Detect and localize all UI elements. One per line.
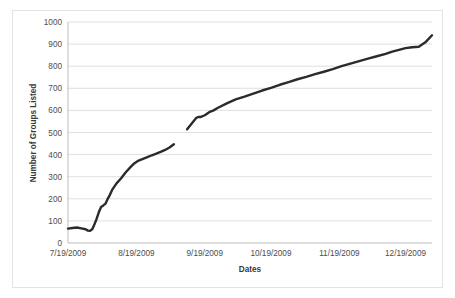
y-tick-label: 500 [48,129,62,138]
y-axis-tick-labels: 10009008007006005004003002001000 [44,18,63,248]
y-tick-label: 700 [48,84,62,93]
x-tick-label: 11/19/2009 [319,249,360,258]
y-tick-label: 0 [57,239,62,248]
x-tick-label: 9/19/2009 [187,249,224,258]
line-chart: 10009008007006005004003002001000 7/19/20… [0,0,455,298]
x-tick-label: 7/19/2009 [50,249,87,258]
x-tick-label: 10/19/2009 [250,249,291,258]
y-tick-label: 400 [48,151,62,160]
y-tick-label: 100 [48,217,62,226]
series-segment-2 [187,35,432,129]
series-segment-1 [68,144,174,231]
x-tick-label: 8/19/2009 [118,249,155,258]
y-tick-label: 800 [48,62,62,71]
y-tick-label: 300 [48,173,62,182]
gridlines [68,22,432,221]
x-axis-tick-labels: 7/19/20098/19/20099/19/200910/19/200911/… [50,249,427,258]
x-tick-label: 12/19/2009 [385,249,426,258]
y-axis-title: Number of Groups Listed [29,84,38,183]
x-axis-title: Dates [239,265,262,274]
y-tick-label: 200 [48,195,62,204]
y-tick-label: 900 [48,40,62,49]
chart-container: 10009008007006005004003002001000 7/19/20… [0,0,455,298]
y-tick-label: 600 [48,106,62,115]
y-tick-label: 1000 [44,18,63,27]
data-series-line [68,35,432,231]
